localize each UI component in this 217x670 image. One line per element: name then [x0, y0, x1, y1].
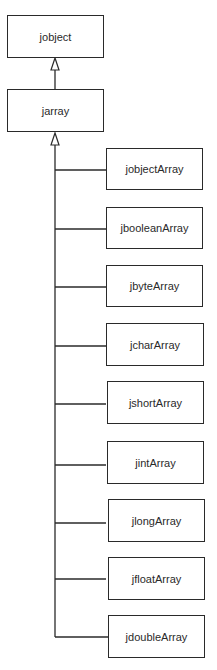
class-label: jbyteArray [130, 280, 180, 292]
class-label: jbooleanArray [121, 222, 189, 234]
inheritance-arrow-icon [51, 58, 59, 70]
class-label: jdoubleArray [126, 631, 188, 643]
class-label: jcharArray [130, 339, 180, 351]
class-label: jintArray [135, 457, 175, 469]
class-box-jlongarray: jlongArray [108, 499, 205, 542]
class-box-jchararray: jcharArray [106, 323, 204, 366]
class-box-jarray: jarray [7, 89, 104, 132]
class-box-jbytearray: jbyteArray [106, 265, 203, 307]
class-label: jfloatArray [132, 573, 182, 585]
class-label: jlongArray [132, 515, 182, 527]
class-box-jobjectarray: jobjectArray [106, 148, 203, 190]
class-label: jobject [40, 31, 72, 43]
class-box-jfloatarray: jfloatArray [108, 557, 205, 600]
class-label: jshortArray [129, 397, 182, 409]
class-box-jintarray: jintArray [107, 441, 204, 484]
class-box-jdoublearray: jdoubleArray [108, 615, 205, 658]
class-label: jarray [42, 105, 70, 117]
class-label: jobjectArray [125, 163, 183, 175]
class-box-jobject: jobject [7, 15, 104, 58]
class-box-jbooleanarray: jbooleanArray [106, 207, 203, 249]
inheritance-arrow-icon [51, 133, 59, 145]
class-box-jshortarray: jshortArray [107, 381, 204, 424]
